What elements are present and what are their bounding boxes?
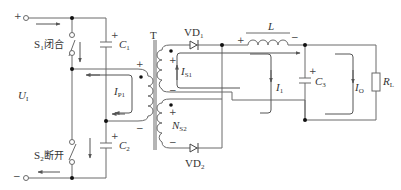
s2-contact-bottom-icon — [70, 160, 75, 165]
vd1-diode-icon — [190, 40, 198, 50]
c2-label: C2 — [119, 140, 130, 153]
primary-top-polarity: + — [136, 60, 144, 69]
node-dot — [220, 43, 224, 47]
s2-blade — [69, 144, 76, 160]
primary-dot-icon — [139, 75, 143, 79]
i1-current-arrow — [250, 54, 271, 113]
is1-label: IS1 — [181, 66, 192, 79]
s1-contact-bottom-icon — [70, 51, 75, 56]
secondary1-bottom-polarity: − — [169, 86, 177, 95]
negative-terminal-icon — [24, 176, 29, 181]
secondary2-bottom-polarity: − — [169, 138, 177, 147]
positive-terminal-label: + — [14, 12, 22, 21]
transformer-label: T — [150, 30, 157, 41]
secondary2-top-polarity: + — [169, 108, 177, 117]
node-dot — [70, 176, 74, 180]
inductor-label: L — [268, 21, 274, 32]
s2-contact-top-icon — [70, 140, 75, 145]
center-tap-wire — [232, 92, 305, 100]
inductor-right-polarity: − — [291, 33, 299, 42]
vd2-diode-icon — [190, 143, 198, 153]
secondary1-dot-icon — [169, 49, 173, 53]
inductor-winding — [248, 40, 288, 45]
s1-label: S1闭合 — [34, 39, 64, 52]
io-current-arrow — [325, 54, 353, 114]
ip1-label: IP1 — [114, 86, 125, 99]
c1-polarity: + — [111, 31, 119, 40]
secondary1-top-polarity: + — [169, 56, 177, 65]
secondary2-winding — [157, 103, 162, 142]
secondary2-top-wire — [162, 99, 222, 103]
c1-label: C1 — [119, 39, 130, 52]
c3-label: C3 — [315, 76, 326, 89]
secondary1-winding — [157, 50, 162, 89]
inductor-left-polarity: + — [237, 36, 245, 45]
node-dot — [303, 43, 307, 47]
node-dot — [70, 67, 74, 71]
io-label: IO — [355, 82, 364, 95]
positive-terminal-icon — [24, 16, 29, 21]
vd2-label: VD2 — [185, 158, 204, 171]
primary-bottom-polarity: − — [136, 124, 144, 133]
ip1-current-arrow — [90, 75, 132, 113]
rl-label: RL — [383, 76, 394, 89]
ns2-label: NS2 — [172, 120, 187, 133]
node-dot — [70, 16, 74, 20]
node-dot — [303, 118, 307, 122]
input-voltage-label: UI — [18, 90, 28, 103]
vd1-label: VD1 — [184, 27, 203, 40]
s1-contact-top-icon — [70, 33, 75, 38]
secondary1-top-wire — [162, 45, 170, 50]
s2-label: S2断开 — [34, 150, 64, 163]
primary-winding — [148, 76, 153, 116]
i1-label: I1 — [276, 82, 283, 95]
rl-body — [372, 73, 380, 91]
negative-terminal-label: − — [13, 172, 21, 181]
c2-polarity: + — [111, 132, 119, 141]
node-dot — [104, 119, 108, 123]
primary-bottom-wire — [106, 116, 148, 121]
